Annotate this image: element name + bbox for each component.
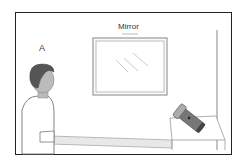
person-a	[22, 64, 54, 154]
person-label: A	[39, 43, 45, 53]
mirror-label: Mirror	[118, 22, 139, 31]
mirror	[93, 34, 167, 95]
floor-bench	[50, 136, 172, 148]
